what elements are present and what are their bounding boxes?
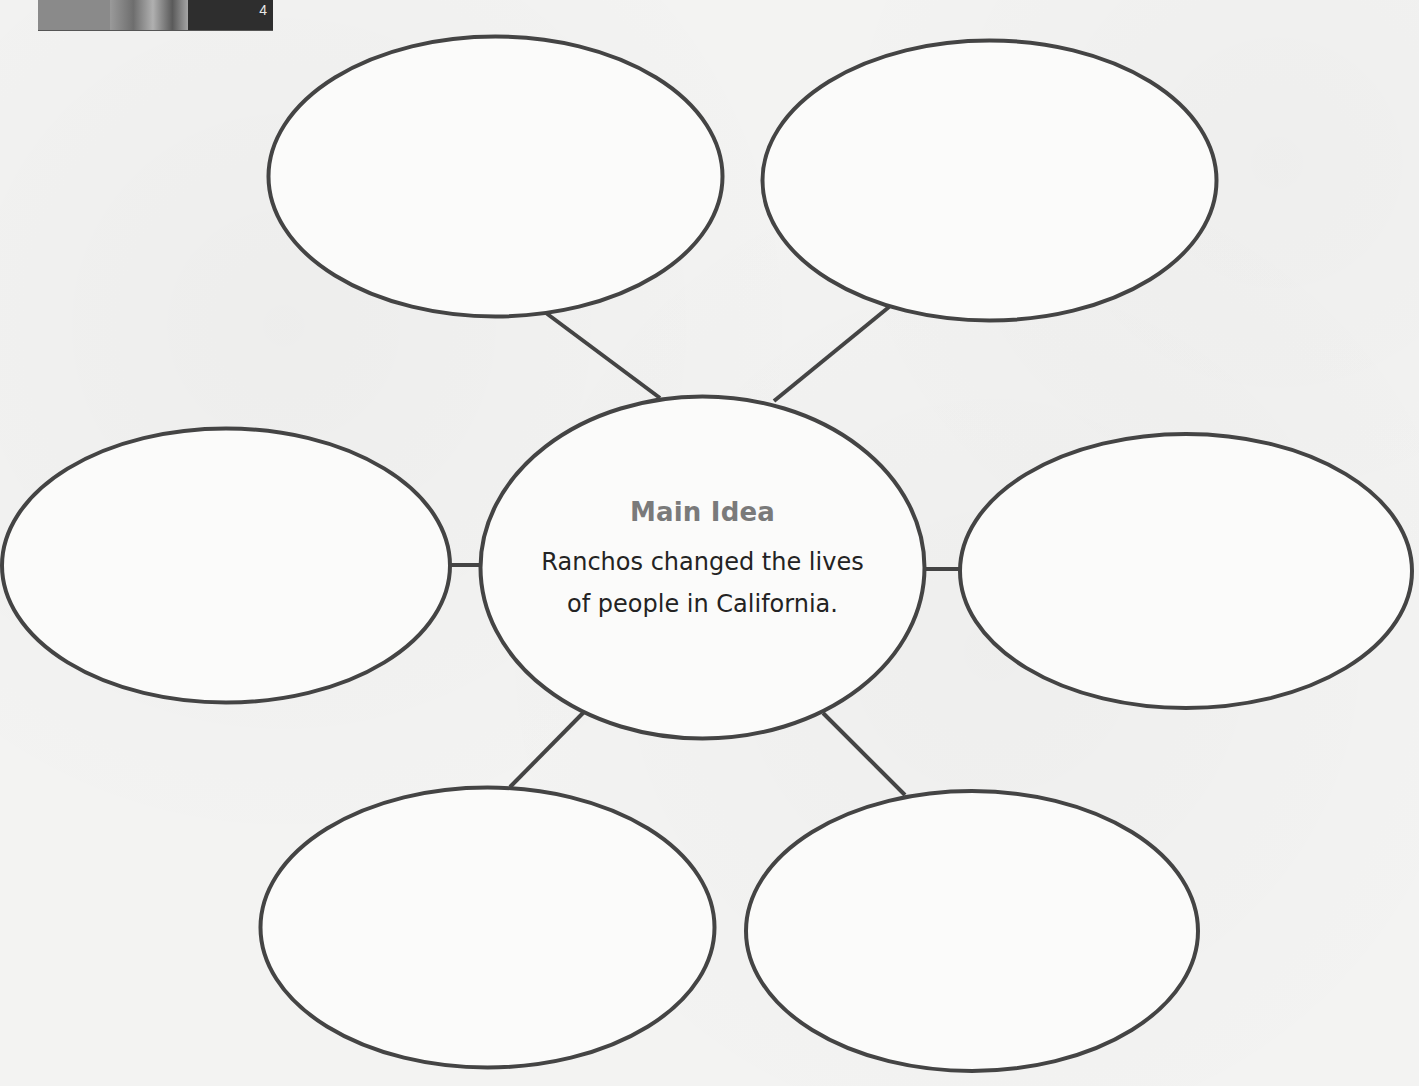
main-idea-title: Main Idea bbox=[630, 497, 775, 527]
detail-bubble-top-left[interactable] bbox=[269, 37, 723, 317]
detail-bubble-right[interactable] bbox=[960, 434, 1412, 708]
detail-bubble-left[interactable] bbox=[2, 429, 450, 703]
main-idea-content: Main Idea Ranchos changed the lives of p… bbox=[479, 395, 926, 740]
connector-top-left bbox=[546, 313, 660, 398]
main-idea-text-line-2: of people in California. bbox=[493, 583, 913, 625]
main-idea-text: Ranchos changed the lives of people in C… bbox=[493, 541, 913, 625]
detail-bubble-top-right[interactable] bbox=[763, 41, 1217, 321]
main-idea-text-line-1: Ranchos changed the lives bbox=[493, 541, 913, 583]
connector-top-right bbox=[774, 307, 889, 401]
detail-bubble-bottom-right[interactable] bbox=[746, 791, 1198, 1071]
detail-bubble-bottom-left[interactable] bbox=[261, 788, 715, 1068]
